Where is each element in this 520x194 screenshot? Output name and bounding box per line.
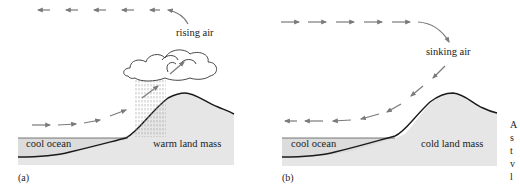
panel-a-sea-breeze: rising air cool ocean warm land mass (a) [0, 0, 260, 194]
lower-airflow-arrows [285, 66, 445, 121]
cloud-icon [124, 50, 217, 81]
side-text-line: s [510, 131, 520, 144]
panel-b-caption: (b) [282, 172, 294, 183]
cool-ocean-label: cool ocean [26, 138, 71, 149]
panel-b-land-breeze: sinking air cool ocean cold land mass (b… [255, 0, 515, 194]
side-text-line: v [510, 157, 520, 170]
rising-air-label: rising air [176, 27, 214, 38]
sinking-air-label: sinking air [426, 46, 471, 57]
side-text-line: A [510, 118, 520, 131]
side-text-line: l [510, 170, 520, 183]
side-text-line: t [510, 144, 520, 157]
panel-a-diagram [0, 0, 260, 194]
warm-land-mass-label: warm land mass [153, 138, 221, 149]
cool-ocean-label: cool ocean [291, 138, 336, 149]
cold-land-mass-label: cold land mass [421, 138, 483, 149]
upper-airflow-arrows [281, 22, 449, 42]
upper-airflow-arrows [38, 10, 188, 24]
rain-icon [134, 75, 166, 137]
panel-a-caption: (a) [18, 172, 29, 183]
cropped-side-text: A s t v l [510, 118, 520, 183]
panel-b-diagram [255, 0, 515, 194]
